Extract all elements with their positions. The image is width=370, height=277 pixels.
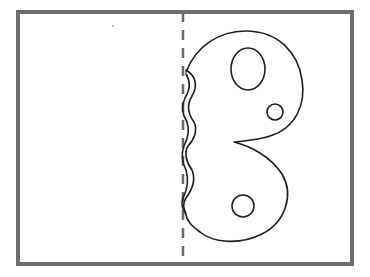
large-oval-hole [231, 48, 265, 90]
diagram-canvas [0, 0, 370, 277]
small-circle-hole-bottom [232, 195, 254, 217]
small-circle-hole-right [267, 104, 283, 120]
speck-mark [112, 25, 114, 27]
blob-shape [185, 31, 303, 241]
card-outline [18, 12, 352, 264]
